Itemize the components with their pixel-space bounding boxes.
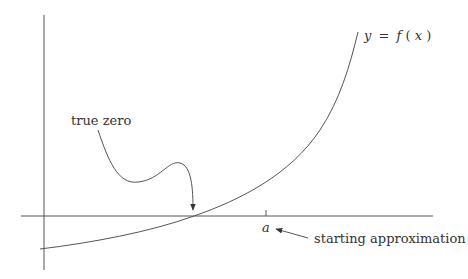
true-zero-arrow: [98, 130, 193, 210]
curve-label-y: y: [363, 28, 372, 43]
starting-approx-arrow: [276, 229, 308, 238]
curve-label-rparen: ): [426, 28, 431, 43]
tick-label-a: a: [262, 220, 270, 235]
curve-label-eq: =: [379, 28, 390, 43]
curve-label-x: x: [415, 28, 423, 43]
curve-label-lparen: (: [406, 28, 411, 43]
curve-label-f: f: [396, 28, 404, 43]
curve-label: y = f ( x ): [363, 28, 431, 43]
diagram-canvas: true zero y = f ( x ) a starting approxi…: [0, 0, 468, 279]
starting-approx-label: starting approximation: [314, 231, 466, 246]
true-zero-label: true zero: [71, 113, 131, 128]
